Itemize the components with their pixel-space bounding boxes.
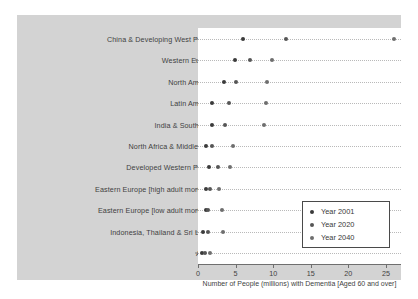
grid-line	[198, 82, 401, 83]
grid-line	[198, 253, 401, 254]
data-point	[204, 144, 208, 148]
legend-marker-icon	[310, 223, 314, 227]
legend-label: Year 2001	[321, 207, 354, 216]
data-point	[220, 208, 224, 212]
data-point	[227, 101, 231, 105]
data-point	[216, 165, 220, 169]
data-point	[210, 101, 214, 105]
data-point	[204, 187, 208, 191]
grid-line	[198, 60, 401, 61]
data-point	[392, 37, 396, 41]
data-point	[201, 230, 205, 234]
grid-line	[198, 125, 401, 126]
x-axis-title: Number of People (millions) with Dementi…	[198, 280, 401, 287]
grid-line	[198, 39, 401, 40]
legend-item[interactable]: Year 2040	[303, 231, 389, 244]
data-point	[248, 58, 252, 62]
data-point	[262, 123, 266, 127]
x-axis-tick	[273, 264, 274, 268]
data-point	[228, 165, 232, 169]
grid-line	[198, 146, 401, 147]
x-axis-tick	[198, 264, 199, 268]
x-axis-tick-label: 0	[196, 269, 200, 278]
data-point	[210, 144, 214, 148]
data-point	[206, 208, 210, 212]
legend-item[interactable]: Year 2020	[303, 218, 389, 231]
data-point	[208, 187, 212, 191]
x-axis-tick	[236, 264, 237, 268]
data-point	[207, 165, 211, 169]
chart-legend: Year 2001Year 2020Year 2040	[302, 201, 390, 248]
legend-item[interactable]: Year 2001	[303, 205, 389, 218]
data-point	[217, 187, 221, 191]
data-point	[208, 251, 212, 255]
data-point	[270, 58, 274, 62]
data-point	[222, 80, 226, 84]
data-point	[284, 37, 288, 41]
x-axis-tick	[348, 264, 349, 268]
data-point	[264, 101, 268, 105]
grid-line	[198, 189, 401, 190]
legend-marker-icon	[310, 210, 314, 214]
data-point	[265, 80, 269, 84]
data-point	[206, 230, 210, 234]
legend-marker-icon	[310, 236, 314, 240]
legend-label: Year 2020	[321, 220, 354, 229]
chart-figure: China & Developing West PacificWestern E…	[17, 15, 401, 280]
x-axis-tick-label: 15	[307, 269, 315, 278]
x-axis-tick-label: 10	[269, 269, 277, 278]
data-point	[241, 37, 245, 41]
data-point	[231, 144, 235, 148]
data-point	[234, 80, 238, 84]
data-point	[221, 230, 225, 234]
data-point	[203, 251, 207, 255]
x-axis-tick	[311, 264, 312, 268]
legend-label: Year 2040	[321, 233, 354, 242]
data-point	[210, 123, 214, 127]
x-axis-tick-label: 5	[234, 269, 238, 278]
x-axis-tick-label: 25	[382, 269, 390, 278]
data-point	[233, 58, 237, 62]
x-axis-line	[198, 264, 401, 265]
x-axis-tick	[386, 264, 387, 268]
x-axis-tick-label: 20	[344, 269, 352, 278]
data-point	[223, 123, 227, 127]
